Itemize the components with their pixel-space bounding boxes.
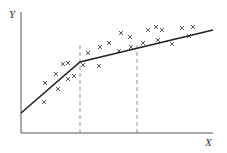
piecewise-regression-diagram: [0, 0, 227, 153]
x-axis-label: X: [205, 136, 212, 148]
data-points: [42, 25, 195, 104]
axes: [21, 12, 213, 133]
y-axis-label: Y: [9, 8, 15, 20]
fit-line: [21, 30, 213, 113]
dashed-breakpoints: [80, 45, 137, 133]
